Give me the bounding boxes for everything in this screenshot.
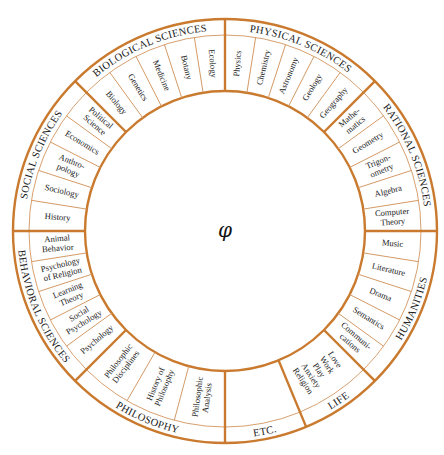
discipline-label: Mathe-matics	[336, 106, 368, 137]
discipline-label-line: History	[44, 211, 71, 223]
discipline-label: History ofPhilosophy	[143, 364, 176, 408]
discipline-label: Trigon-ometry	[364, 152, 396, 180]
discipline-label-line: Chemistry	[254, 48, 272, 86]
discipline-label-line: Theory	[380, 216, 406, 228]
discipline-label: Botany	[179, 54, 195, 81]
discipline-label-line: Ecology	[207, 49, 219, 79]
discipline-label-line: Genetics	[126, 72, 151, 103]
discipline-label-line: Botany	[179, 54, 195, 81]
discipline-label: Algebra	[373, 183, 402, 199]
discipline-label: Sociology	[44, 182, 81, 200]
discipline-label-line: Semantics	[351, 304, 387, 331]
discipline-label-line: Physics	[231, 49, 243, 77]
discipline-label-line: Algebra	[373, 183, 402, 199]
discipline-label: Ecology	[207, 49, 219, 79]
discipline-label: Physics	[231, 49, 243, 77]
item-divider	[174, 366, 188, 420]
discipline-label: PoliticalScience	[81, 104, 116, 138]
discipline-label-line: Economics	[63, 128, 101, 157]
center-phi-symbol: φ	[218, 218, 232, 242]
discipline-label-line: Medicine	[151, 58, 173, 92]
item-divider	[194, 37, 203, 92]
discipline-label-line: Drama	[368, 285, 394, 303]
discipline-label: Chemistry	[254, 48, 272, 86]
discipline-label-line: Behavior	[42, 242, 74, 254]
discipline-label-line: Sociology	[44, 182, 81, 200]
category-label: LIFE	[326, 390, 351, 412]
knowledge-wheel-diagram: RATIONAL SCIENCESPHYSICAL SCIENCESBIOLOG…	[0, 0, 444, 455]
item-divider	[31, 200, 86, 209]
item-divider	[363, 253, 418, 262]
discipline-label: Drama	[368, 285, 394, 303]
discipline-label: Music	[381, 237, 403, 249]
discipline-label: Anthro-pology	[54, 151, 87, 180]
discipline-label: ComputerTheory	[374, 206, 410, 228]
discipline-label: LoveWorkPlayAnxietyReligion	[291, 344, 348, 396]
discipline-label: Medicine	[151, 58, 173, 92]
discipline-label: AnimalBehavior	[41, 232, 74, 254]
discipline-label: Genetics	[126, 72, 151, 103]
discipline-label-line: Literature	[371, 260, 406, 278]
discipline-label: Economics	[63, 128, 101, 157]
discipline-label: Semantics	[351, 304, 387, 331]
discipline-label-line: Music	[381, 237, 403, 249]
discipline-label: Literature	[371, 260, 406, 278]
discipline-label: Communi-cations	[333, 320, 374, 359]
discipline-label: PhilosophicAnalysis	[190, 376, 215, 419]
discipline-label: History	[44, 211, 71, 223]
